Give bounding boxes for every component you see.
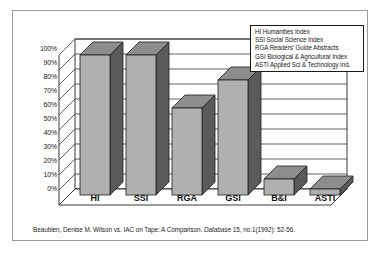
legend-item-asti: ASTI Applied Sci & Technology Ind.	[255, 61, 360, 69]
x-axis-label-bi: B&I	[257, 193, 301, 203]
figure-container: 100% 90% 80% 70% 60% 50% 40% 30% 20% 10%…	[0, 0, 382, 253]
chart-legend: HI Humanities Index SSI Social Science I…	[250, 25, 364, 72]
x-axis-label-ssi: SSI	[119, 193, 163, 203]
x-axis-label-rga: RGA	[165, 193, 209, 203]
caption-journal-title: Database	[204, 226, 231, 233]
caption-locator: 15, no.1(1992): 52-56.	[231, 226, 295, 233]
axis-depth-lines	[59, 39, 75, 205]
figure-frame: 100% 90% 80% 70% 60% 50% 40% 30% 20% 10%…	[12, 10, 368, 241]
caption-author: Beaubien, Denise M. Wilson vs. IAC on Ta…	[33, 226, 204, 233]
legend-item-ssi: SSI Social Science Index	[255, 36, 360, 44]
legend-item-rga: RGA Readers' Guide Abstracts	[255, 44, 360, 52]
figure-caption: Beaubien, Denise M. Wilson vs. IAC on Ta…	[33, 225, 358, 234]
x-axis-label-asti: ASTI	[303, 193, 347, 203]
bar-SSI	[126, 42, 169, 195]
legend-item-gsi: GSI Biological & Agricultural Index	[255, 53, 360, 61]
bar-HI	[80, 42, 123, 195]
legend-item-hi: HI Humanities Index	[255, 28, 360, 36]
x-axis-label-hi: HI	[73, 193, 117, 203]
x-axis-label-gsi: GSI	[211, 193, 255, 203]
bar-RGA	[172, 95, 215, 195]
bar-GSI	[218, 67, 261, 195]
